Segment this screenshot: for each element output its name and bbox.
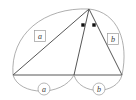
edge-left-to-apex: [13, 9, 89, 75]
label-lower-right: b: [93, 83, 105, 95]
geometry-figure: a b a b: [0, 0, 136, 100]
geometry-diagram-svg: a b a b: [0, 0, 136, 100]
label-upper-right-text: b: [111, 35, 115, 44]
label-lower-left: a: [38, 83, 50, 95]
label-upper-left-text: a: [38, 32, 42, 41]
label-upper-right: b: [108, 34, 119, 45]
edge-apex-to-foot: [74, 9, 89, 75]
measurement-arcs: [13, 9, 124, 91]
angle-dot-left: [81, 23, 84, 26]
equal-angle-dots-at-apex: [81, 23, 95, 26]
label-lower-left-text: a: [42, 85, 46, 94]
label-upper-left: a: [35, 31, 46, 42]
triangle-edges: [13, 9, 122, 75]
angle-dot-right: [92, 23, 95, 26]
label-lower-right-text: b: [97, 85, 101, 94]
